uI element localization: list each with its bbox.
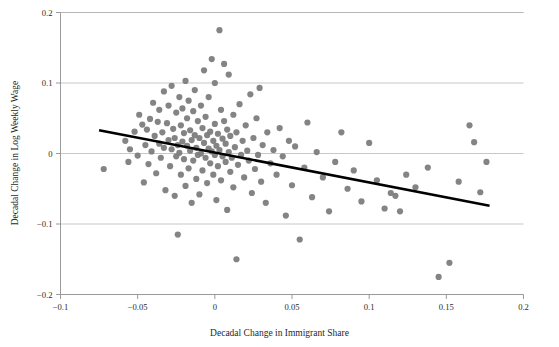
data-point	[221, 118, 227, 124]
data-point	[243, 122, 249, 128]
data-point	[142, 142, 148, 148]
data-point	[244, 148, 250, 154]
data-point	[184, 115, 190, 121]
data-point	[273, 172, 279, 178]
data-point	[173, 110, 179, 116]
y-tick-label: 0.1	[42, 78, 53, 88]
data-point	[164, 120, 170, 126]
data-point	[169, 146, 175, 152]
data-point	[139, 121, 145, 127]
x-axis-title: Decadal Change in Immigrant Share	[210, 328, 349, 338]
data-point	[201, 67, 207, 73]
data-point	[198, 102, 204, 108]
data-point	[366, 140, 372, 146]
data-point	[207, 129, 213, 135]
data-point	[483, 159, 489, 165]
data-point	[196, 191, 202, 197]
data-point	[144, 126, 150, 132]
data-point	[338, 129, 344, 135]
data-point	[263, 200, 269, 206]
data-point	[215, 131, 221, 137]
data-point	[172, 193, 178, 199]
y-tick-label: 0.2	[42, 8, 53, 18]
data-point	[471, 139, 477, 145]
data-point	[101, 166, 107, 172]
data-point	[141, 179, 147, 185]
data-point	[233, 129, 239, 135]
data-point	[176, 94, 182, 100]
data-point	[147, 116, 153, 122]
data-point	[201, 140, 207, 146]
data-point	[236, 101, 242, 107]
y-tick-label: 0	[48, 149, 52, 159]
data-point	[189, 200, 195, 206]
data-point	[230, 184, 236, 190]
data-point	[178, 122, 184, 128]
data-point	[252, 166, 258, 172]
data-point	[161, 88, 167, 94]
data-point	[258, 179, 264, 185]
regression-line	[99, 130, 489, 205]
data-point	[456, 179, 462, 185]
data-point	[344, 186, 350, 192]
data-point	[397, 208, 403, 214]
data-point	[152, 133, 158, 139]
data-point	[206, 94, 212, 100]
data-point	[193, 176, 199, 182]
data-point	[332, 159, 338, 165]
data-point	[175, 231, 181, 237]
data-point	[221, 61, 227, 67]
grid-lines	[61, 13, 524, 225]
data-point	[199, 167, 205, 173]
data-point	[167, 163, 173, 169]
data-point	[179, 105, 185, 111]
data-point	[477, 189, 483, 195]
data-point	[182, 78, 188, 84]
data-point	[145, 161, 151, 167]
data-point	[127, 146, 133, 152]
x-tick-label: 0.1	[364, 302, 375, 312]
data-point	[223, 159, 229, 165]
data-point	[235, 162, 241, 168]
data-point	[264, 129, 270, 135]
x-tick-label: 0.15	[439, 302, 454, 312]
data-point	[161, 145, 167, 151]
data-point	[158, 155, 164, 161]
data-point	[156, 107, 162, 113]
data-point	[304, 119, 310, 125]
data-point	[412, 184, 418, 190]
data-point	[135, 153, 141, 159]
data-point	[190, 157, 196, 163]
data-point	[212, 121, 218, 127]
data-point	[292, 143, 298, 149]
data-point	[202, 114, 208, 120]
data-point	[148, 148, 154, 154]
data-point	[309, 194, 315, 200]
scatter-plot: −0.2−0.100.10.2−0.1−0.0500.050.10.150.2 …	[0, 0, 559, 347]
data-point	[277, 125, 283, 131]
data-point	[213, 197, 219, 203]
data-point	[233, 256, 239, 262]
data-point	[403, 172, 409, 178]
data-point	[190, 108, 196, 114]
data-point	[216, 27, 222, 33]
data-point	[176, 150, 182, 156]
data-point	[358, 198, 364, 204]
data-point	[286, 138, 292, 144]
data-point	[159, 129, 165, 135]
data-point	[207, 160, 213, 166]
data-point	[247, 91, 253, 97]
data-point	[280, 153, 286, 159]
data-point	[153, 170, 159, 176]
data-point	[131, 129, 137, 135]
data-point	[446, 260, 452, 266]
data-point	[240, 138, 246, 144]
data-point	[125, 159, 131, 165]
y-axis-title: Decadal Change in Log Weekly Wage	[10, 81, 20, 226]
data-point	[256, 85, 262, 91]
x-tick-label: 0.05	[284, 302, 299, 312]
data-point	[199, 125, 205, 131]
data-point	[187, 127, 193, 133]
data-point	[232, 144, 238, 150]
axis-ticks	[56, 13, 524, 300]
